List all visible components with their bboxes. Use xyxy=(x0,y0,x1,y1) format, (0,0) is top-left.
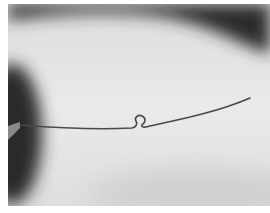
photo-canvas xyxy=(8,4,270,206)
wire-loop-photo xyxy=(8,4,270,206)
